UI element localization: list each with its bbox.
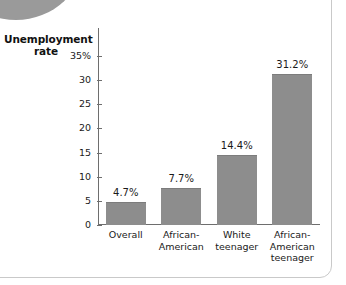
- y-axis-tick-label: 0: [85, 218, 91, 231]
- bar: [272, 74, 312, 225]
- y-axis-tick-label: 30: [79, 73, 91, 86]
- bar: [217, 155, 257, 225]
- y-axis-tick-label: 25: [79, 97, 91, 110]
- bar-group: 4.7%: [106, 28, 146, 225]
- chart-figure: Unemployment rate 05101520253035% 4.7%7.…: [0, 0, 346, 285]
- bar-value-label: 4.7%: [96, 187, 156, 199]
- bar: [106, 202, 146, 225]
- bar-value-label: 14.4%: [207, 140, 267, 152]
- bar-series: 4.7%7.7%14.4%31.2%: [98, 28, 320, 225]
- y-axis-tick-label: 35%: [70, 49, 91, 62]
- x-axis-category-label: African- American teenager: [265, 229, 321, 264]
- bar-value-label: 31.2%: [262, 59, 322, 71]
- y-axis-tick-label: 15: [79, 146, 91, 159]
- bar-group: 7.7%: [161, 28, 201, 225]
- bar: [161, 188, 201, 225]
- bar-value-label: 7.7%: [151, 173, 211, 185]
- x-axis-category-label: African- American: [154, 229, 210, 252]
- bar-group: 14.4%: [217, 28, 257, 225]
- x-axis-category-label: Overall: [98, 229, 154, 241]
- y-axis-tick-label: 10: [79, 170, 91, 183]
- y-axis-tick-mark: [97, 225, 102, 226]
- y-axis-tick-label: 20: [79, 121, 91, 134]
- x-axis-category-label: White teenager: [209, 229, 265, 252]
- x-axis-category-labels: OverallAfrican- AmericanWhite teenagerAf…: [98, 229, 320, 281]
- y-axis-tick-label: 5: [85, 194, 91, 207]
- bar-group: 31.2%: [272, 28, 312, 225]
- decorative-corner-blob: [0, 0, 84, 20]
- plot-area: 05101520253035% 4.7%7.7%14.4%31.2%: [98, 28, 320, 225]
